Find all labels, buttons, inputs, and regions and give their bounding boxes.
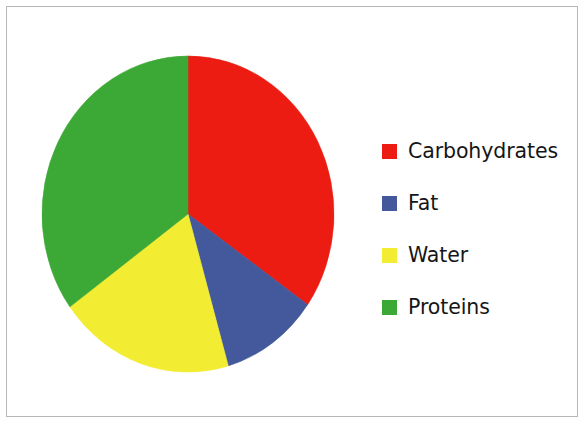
legend-item-label: Fat: [408, 193, 438, 214]
legend-item[interactable]: Carbohydrates: [382, 125, 572, 177]
legend-item-label: Carbohydrates: [408, 141, 558, 162]
legend-item[interactable]: Fat: [382, 177, 572, 229]
legend-swatch-proteins: [382, 300, 397, 315]
legend-item-label: Proteins: [408, 297, 490, 318]
pie-plot-area: [30, 45, 360, 385]
legend-item[interactable]: Water: [382, 229, 572, 281]
pie-slices-group: [42, 56, 334, 372]
legend-item-label: Water: [408, 245, 468, 266]
legend-item[interactable]: Proteins: [382, 281, 572, 333]
pie-chart-svg: [30, 45, 360, 385]
pie-chart-figure: CarbohydratesFatWaterProteins: [0, 0, 586, 425]
chart-legend: CarbohydratesFatWaterProteins: [382, 125, 572, 333]
legend-swatch-water: [382, 248, 397, 263]
legend-swatch-fat: [382, 196, 397, 211]
legend-swatch-carbohydrates: [382, 144, 397, 159]
